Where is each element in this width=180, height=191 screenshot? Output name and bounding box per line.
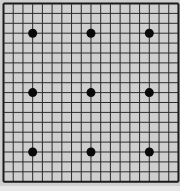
- star-point: [86, 88, 95, 97]
- go-board[interactable]: [0, 0, 180, 186]
- star-point: [28, 148, 37, 157]
- star-point: [86, 29, 95, 38]
- board-grid[interactable]: [0, 0, 180, 191]
- star-point: [28, 88, 37, 97]
- star-point: [145, 29, 154, 38]
- star-point: [28, 29, 37, 38]
- star-point: [145, 88, 154, 97]
- star-point: [145, 148, 154, 157]
- star-point: [86, 148, 95, 157]
